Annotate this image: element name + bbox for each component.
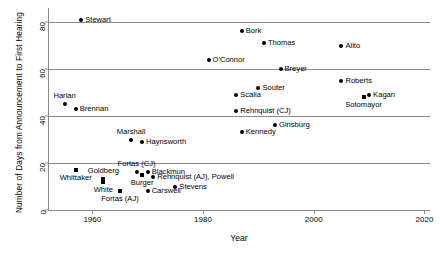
y-axis-line — [48, 8, 49, 210]
data-point[interactable] — [339, 79, 343, 83]
data-point-label: Haynsworth — [146, 138, 186, 146]
data-point-label: Thomas — [268, 39, 295, 47]
data-point[interactable] — [74, 168, 78, 172]
y-tick-label-0: 0 — [39, 210, 48, 214]
data-point-label: Alito — [345, 42, 360, 50]
data-point[interactable] — [63, 102, 67, 106]
data-point-label: Rehnquist (AJ), Powell — [157, 173, 234, 181]
plot-area: 020406080 1960198020002020 StewartBorkTh… — [48, 8, 430, 210]
x-tick-mark-1960 — [92, 210, 93, 214]
data-point[interactable] — [146, 189, 150, 193]
data-point[interactable] — [146, 170, 150, 174]
data-point-label: Roberts — [345, 77, 372, 85]
data-point-label: Kagan — [373, 91, 395, 99]
data-point[interactable] — [74, 107, 78, 111]
data-point-label: Ginsburg — [279, 122, 310, 130]
data-point[interactable] — [240, 130, 244, 134]
data-point[interactable] — [279, 67, 283, 71]
data-point-label: Bork — [246, 28, 262, 36]
x-tick-label-2000: 2000 — [305, 215, 323, 224]
data-point-label: O'Connor — [213, 56, 245, 64]
data-point[interactable] — [362, 95, 366, 99]
data-point[interactable] — [118, 189, 122, 193]
data-point[interactable] — [240, 29, 244, 33]
data-point-label: Fortas (AJ) — [101, 195, 139, 203]
data-point-label: Fortas (CJ) — [118, 161, 156, 169]
data-point-label: Burger — [131, 179, 154, 187]
data-point[interactable] — [129, 138, 133, 142]
data-point[interactable] — [262, 41, 266, 45]
data-point[interactable] — [207, 58, 211, 62]
y-tick-label-20: 20 — [39, 163, 48, 172]
data-point[interactable] — [135, 170, 139, 174]
data-point-label: Stewart — [85, 16, 111, 24]
data-point[interactable] — [339, 44, 343, 48]
y-tick-label-60: 60 — [39, 69, 48, 78]
data-point-label: Rehnquist (CJ) — [240, 108, 291, 116]
x-tick-label-2020: 2020 — [416, 215, 434, 224]
data-point[interactable] — [140, 173, 144, 177]
data-point[interactable] — [234, 109, 238, 113]
gridline-y-60 — [48, 69, 430, 70]
data-point-label: Goldberg — [88, 168, 119, 176]
data-point-label: Harlan — [53, 93, 75, 101]
y-tick-label-40: 40 — [39, 116, 48, 125]
data-point-label: Marshall — [117, 128, 146, 136]
gridline-y-0 — [48, 210, 430, 211]
y-axis-title: Number of Days from Announcement to Firs… — [15, 8, 24, 218]
data-point-label: Kennedy — [246, 129, 276, 137]
x-tick-mark-1980 — [203, 210, 204, 214]
data-point-label: Carswell — [152, 187, 181, 195]
x-axis-title: Year — [48, 233, 430, 243]
data-point[interactable] — [79, 18, 83, 22]
data-point-label: Breyer — [285, 65, 307, 73]
y-tick-label-80: 80 — [39, 22, 48, 31]
data-point[interactable] — [101, 180, 105, 184]
x-tick-mark-2000 — [314, 210, 315, 214]
gridline-y-20 — [48, 163, 430, 164]
data-point-label: Souter — [262, 84, 284, 92]
data-point-label: Stevens — [179, 183, 206, 191]
x-tick-mark-2020 — [424, 210, 425, 214]
x-tick-label-1960: 1960 — [83, 215, 101, 224]
data-point-label: Scalia — [240, 91, 261, 99]
data-point[interactable] — [367, 93, 371, 97]
gridline-y-40 — [48, 116, 430, 117]
scatter-chart-figure: Number of Days from Announcement to Firs… — [0, 0, 440, 255]
data-point-label: White — [94, 186, 113, 194]
data-point[interactable] — [140, 140, 144, 144]
x-tick-label-1980: 1980 — [194, 215, 212, 224]
data-point[interactable] — [234, 93, 238, 97]
data-point-label: Brennan — [80, 105, 109, 113]
data-point-label: Sotomayor — [345, 101, 382, 109]
